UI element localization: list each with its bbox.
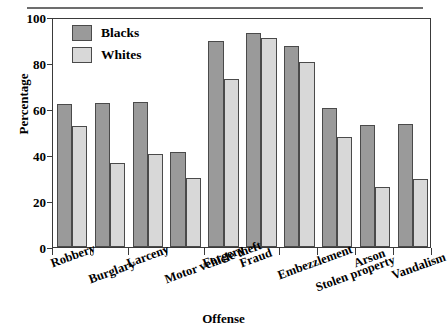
bar-forgery-blacks [208,41,223,247]
bar-vandalism-whites [413,179,428,247]
bar-motor-vehicle-theft-whites [186,178,201,247]
x-axis-title: Offense [0,311,447,327]
bar-vandalism-blacks [398,124,413,247]
x-tick-8 [355,248,356,255]
y-tick-40 [47,156,53,157]
y-axis-title: Percentage [16,34,32,174]
y-tick-60 [47,110,53,111]
bar-arson-whites [375,187,390,247]
bar-arson-blacks [360,125,375,247]
x-tick-2 [128,248,129,255]
header-rule [27,7,423,9]
y-tick-label-20: 20 [0,196,46,209]
y-tick-80 [47,64,53,65]
bar-fraud-blacks [246,33,261,247]
legend-swatch-blacks [72,25,92,41]
chart-legend: Blacks Whites [72,22,142,66]
y-tick-label-0: 0 [0,242,46,255]
x-tick-6 [279,248,280,255]
y-tick-label-100: 100 [0,12,46,25]
legend-item-blacks: Blacks [72,22,142,44]
bar-larceny-whites [148,154,163,247]
bar-robbery-blacks [57,104,72,247]
bar-fraud-whites [261,38,276,247]
x-tick-4 [204,248,205,255]
bar-stolen-property-whites [337,137,352,247]
bar-forgery-whites [224,79,239,247]
legend-item-whites: Whites [72,44,142,66]
x-label-vandalism: Vandalism [390,251,447,282]
bar-motor-vehicle-theft-blacks [170,152,185,247]
legend-label-blacks: Blacks [101,26,139,40]
bar-embezzlement-whites [299,62,314,247]
x-tick-9 [393,248,394,255]
bar-larceny-blacks [133,102,148,247]
x-tick-0 [52,248,53,255]
bar-burglary-whites [110,163,125,247]
bar-robbery-whites [72,126,87,247]
bar-burglary-blacks [95,103,110,247]
legend-swatch-whites [72,47,92,63]
y-tick-20 [47,202,53,203]
bar-embezzlement-blacks [284,46,299,247]
legend-label-whites: Whites [101,48,142,62]
y-tick-100 [47,18,53,19]
bar-chart-figure: 020406080100 Percentage RobberyBurglaryL… [0,0,447,329]
bar-stolen-property-blacks [322,108,337,247]
